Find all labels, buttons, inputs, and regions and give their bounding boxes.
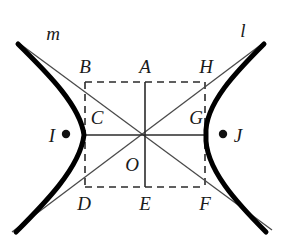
point-label-J: J — [234, 126, 242, 145]
point-label-B: B — [79, 57, 91, 76]
point-label-O: O — [125, 155, 139, 174]
hyperbola-figure: B A H C G I J O D E F m l — [0, 0, 282, 242]
point-label-C: C — [91, 108, 104, 127]
axes — [85, 82, 205, 187]
point-label-E: E — [139, 194, 151, 213]
focus-J-dot — [219, 130, 227, 138]
point-label-F: F — [199, 194, 211, 213]
point-label-I: I — [49, 126, 55, 145]
focus-I-dot — [62, 130, 70, 138]
line-label-l: l — [240, 21, 245, 40]
point-label-D: D — [77, 194, 91, 213]
point-label-A: A — [139, 57, 151, 76]
point-label-G: G — [189, 108, 203, 127]
point-label-H: H — [199, 57, 213, 76]
line-label-m: m — [46, 24, 60, 43]
